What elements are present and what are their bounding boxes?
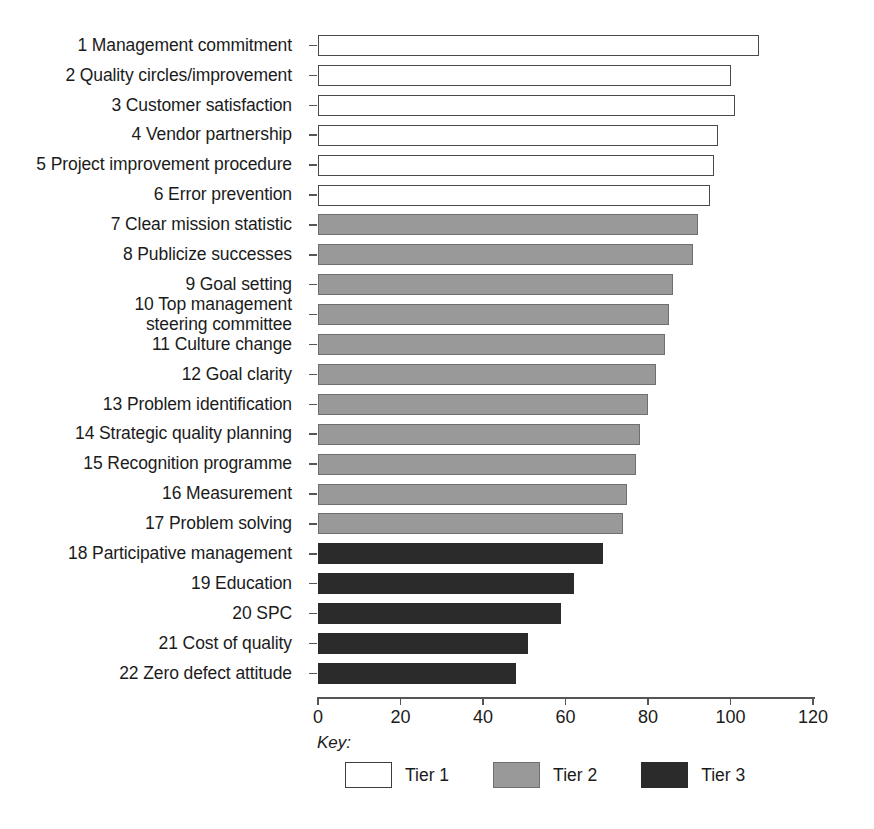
- category-label: 4 Vendor partnership: [0, 125, 305, 145]
- category-tick: [309, 134, 317, 136]
- bar: [318, 274, 673, 295]
- x-axis-tick: [482, 697, 484, 705]
- category-label: 21 Cost of quality: [0, 634, 305, 654]
- category-tick: [309, 493, 317, 495]
- category-tick: [309, 673, 317, 675]
- category-tick: [309, 224, 317, 226]
- category-label: 5 Project improvement procedure: [0, 155, 305, 175]
- bar: [318, 214, 698, 235]
- bar: [318, 155, 714, 176]
- key-title: Key:: [317, 733, 351, 753]
- bar: [318, 185, 710, 206]
- category-label: 7 Clear mission statistic: [0, 215, 305, 235]
- x-axis-tick: [400, 697, 402, 705]
- category-tick: [309, 254, 317, 256]
- category-label: 13 Problem identification: [0, 395, 305, 415]
- category-label: 15 Recognition programme: [0, 454, 305, 474]
- bar: [318, 513, 623, 534]
- category-label: 9 Goal setting: [0, 275, 305, 295]
- category-label: 1 Management commitment: [0, 36, 305, 56]
- plot-area: [318, 30, 815, 697]
- category-tick: [309, 613, 317, 615]
- category-tick: [309, 433, 317, 435]
- category-tick: [309, 523, 317, 525]
- category-label: 18 Participative management: [0, 544, 305, 564]
- bar: [318, 334, 665, 355]
- x-axis-tick-label: 20: [390, 707, 410, 728]
- bar: [318, 573, 574, 594]
- legend-item: Tier 3: [641, 762, 745, 788]
- category-tick: [309, 194, 317, 196]
- x-axis-tick-label: 120: [798, 707, 828, 728]
- x-axis-tick: [812, 697, 814, 705]
- category-label: 11 Culture change: [0, 335, 305, 355]
- category-label: 3 Customer satisfaction: [0, 96, 305, 116]
- category-tick: [309, 553, 317, 555]
- x-axis-tick-label: 40: [473, 707, 493, 728]
- category-tick: [309, 583, 317, 585]
- bar: [318, 484, 627, 505]
- category-label: 12 Goal clarity: [0, 365, 305, 385]
- bar: [318, 603, 561, 624]
- category-label: 6 Error prevention: [0, 185, 305, 205]
- x-axis-tick-label: 80: [638, 707, 658, 728]
- category-tick: [309, 45, 317, 47]
- category-tick: [309, 404, 317, 406]
- category-tick: [309, 463, 317, 465]
- x-axis-tick: [730, 697, 732, 705]
- legend-item: Tier 1: [345, 762, 449, 788]
- category-tick: [309, 105, 317, 107]
- legend-swatch: [493, 762, 540, 788]
- x-axis-tick: [647, 697, 649, 705]
- category-tick: [309, 344, 317, 346]
- bar: [318, 663, 516, 684]
- legend-label: Tier 3: [701, 765, 745, 786]
- bar: [318, 244, 693, 265]
- x-axis-tick: [565, 697, 567, 705]
- legend-swatch: [641, 762, 688, 788]
- bar: [318, 95, 735, 116]
- category-tick: [309, 643, 317, 645]
- legend-item: Tier 2: [493, 762, 597, 788]
- category-label: 19 Education: [0, 574, 305, 594]
- bar: [318, 125, 718, 146]
- bar: [318, 304, 669, 325]
- legend-label: Tier 2: [553, 765, 597, 786]
- x-axis-tick-label: 0: [313, 707, 323, 728]
- bar: [318, 35, 759, 56]
- x-axis-tick-label: 100: [715, 707, 745, 728]
- legend-swatch: [345, 762, 392, 788]
- category-label: 8 Publicize successes: [0, 245, 305, 265]
- bar: [318, 394, 648, 415]
- category-label: 22 Zero defect attitude: [0, 664, 305, 684]
- bar: [318, 543, 603, 564]
- legend-label: Tier 1: [405, 765, 449, 786]
- category-tick: [309, 164, 317, 166]
- bar: [318, 454, 636, 475]
- category-tick: [309, 314, 317, 316]
- bar: [318, 633, 528, 654]
- bar: [318, 424, 640, 445]
- chart-legend: Tier 1Tier 2Tier 3: [345, 762, 789, 788]
- category-label: 14 Strategic quality planning: [0, 424, 305, 444]
- category-label: 10 Top management steering committee: [0, 295, 305, 334]
- x-axis-tick-label: 60: [555, 707, 575, 728]
- bar: [318, 65, 731, 86]
- bar: [318, 364, 656, 385]
- category-label: 2 Quality circles/improvement: [0, 66, 305, 86]
- category-label: 20 SPC: [0, 604, 305, 624]
- category-label: 16 Measurement: [0, 484, 305, 504]
- category-tick: [309, 75, 317, 77]
- category-tick: [309, 374, 317, 376]
- category-label: 17 Problem solving: [0, 514, 305, 534]
- x-axis-tick: [317, 697, 319, 705]
- category-tick: [309, 284, 317, 286]
- bar-chart: 1 Management commitment2 Quality circles…: [0, 0, 874, 829]
